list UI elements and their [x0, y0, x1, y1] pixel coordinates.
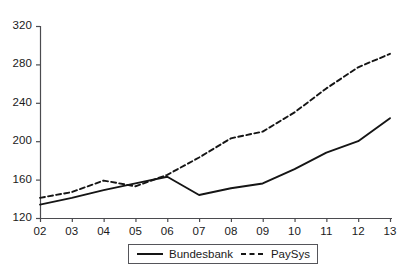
legend-swatch-dashed-icon [240, 249, 266, 259]
y-axis-tick-label: 120 [2, 211, 32, 223]
x-axis-tick-label: 03 [61, 225, 83, 237]
legend-label-paysys: PaySys [271, 248, 310, 260]
x-axis-tick-label: 06 [156, 225, 178, 237]
x-axis-tick-label: 05 [124, 225, 146, 237]
series-line-paysys [40, 54, 390, 198]
series-line-bundesbank [40, 118, 390, 204]
x-axis-tick-label: 07 [188, 225, 210, 237]
y-axis-tick-label: 160 [2, 173, 32, 185]
x-axis-tick-label: 09 [252, 225, 274, 237]
legend-label-bundesbank: Bundesbank [169, 248, 233, 260]
x-axis-tick-label: 02 [29, 225, 51, 237]
axis-lines [40, 26, 392, 219]
y-axis-tick-label: 240 [2, 96, 32, 108]
x-axis-tick-label: 11 [315, 225, 337, 237]
x-axis-tick-label: 08 [220, 225, 242, 237]
y-axis-tick-label: 200 [2, 134, 32, 146]
y-axis-tick-label: 320 [2, 19, 32, 31]
x-axis-tick-label: 12 [347, 225, 369, 237]
line-chart: 120160200240280320 020304050607080910111… [0, 0, 412, 269]
x-axis-tick-label: 13 [379, 225, 401, 237]
y-axis-tick-label: 280 [2, 57, 32, 69]
legend-item-bundesbank: Bundesbank [136, 248, 233, 260]
chart-legend: Bundesbank PaySys [128, 244, 318, 264]
legend-item-paysys: PaySys [240, 248, 310, 260]
x-axis-tick-label: 10 [284, 225, 306, 237]
series-lines [40, 54, 390, 205]
y-axis-ticks [36, 27, 40, 219]
legend-swatch-solid-icon [136, 249, 164, 259]
x-axis-tick-label: 04 [93, 225, 115, 237]
